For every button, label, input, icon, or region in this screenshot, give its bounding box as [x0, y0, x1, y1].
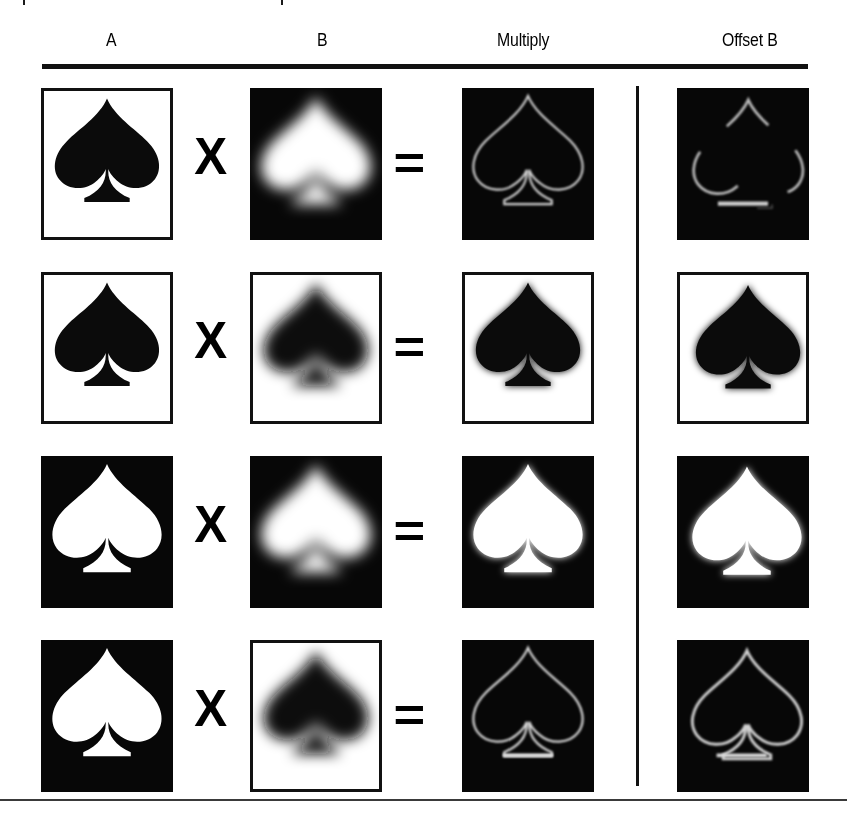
operator-equals: =	[394, 692, 426, 738]
panel-row1-b	[250, 88, 382, 240]
panel-row2-b	[250, 272, 382, 424]
operator-times: X	[194, 130, 227, 182]
panel-row1-offset	[677, 88, 809, 240]
operator-times: X	[194, 498, 227, 550]
panel-row4-multiply	[462, 640, 594, 792]
column-header-multiply: Multiply	[497, 30, 549, 51]
panel-row3-multiply	[462, 456, 594, 608]
spade-blurred-white	[250, 456, 382, 588]
spade-blurred-white	[250, 88, 382, 220]
spade-outline-glow	[462, 640, 594, 772]
column-header-b: B	[317, 30, 327, 51]
spade-softedge-black-offset	[680, 275, 806, 401]
header-rule	[42, 64, 808, 69]
panel-row4-b	[250, 640, 382, 792]
row-3: X =	[0, 456, 847, 608]
row-2: X =	[0, 272, 847, 424]
panel-row3-b	[250, 456, 382, 608]
panel-row2-a	[41, 272, 173, 424]
panel-row2-offset	[677, 272, 809, 424]
operator-equals: =	[394, 508, 426, 554]
spade-sharp-black	[44, 91, 170, 217]
spade-sharp-black	[44, 275, 170, 401]
column-header-offset-b: Offset B	[722, 30, 778, 51]
row-1: X =	[0, 88, 847, 240]
operator-equals: =	[394, 324, 426, 370]
operator-equals: =	[394, 140, 426, 186]
operator-times: X	[194, 314, 227, 366]
spade-blurred-black	[253, 643, 379, 769]
column-header-a: A	[106, 30, 116, 51]
spade-softedge-white	[462, 456, 594, 588]
spade-sharp-white	[41, 640, 173, 772]
spade-softedge-black	[465, 275, 591, 401]
spade-outline-offset-glow	[677, 88, 809, 220]
spade-sharp-white	[41, 456, 173, 588]
spade-blurred-black	[253, 275, 379, 401]
panel-row4-a	[41, 640, 173, 792]
panel-row3-offset	[677, 456, 809, 608]
figure-canvas: A B Multiply Offset B X =	[0, 0, 847, 813]
panel-row1-a	[41, 88, 173, 240]
cropped-text-speck	[23, 0, 25, 5]
cropped-text-speck	[281, 0, 283, 5]
footer-rule	[0, 799, 847, 801]
panel-row1-multiply	[462, 88, 594, 240]
row-4: X =	[0, 640, 847, 792]
spade-softedge-white-offset	[677, 456, 809, 588]
panel-row4-offset	[677, 640, 809, 792]
panel-row3-a	[41, 456, 173, 608]
operator-times: X	[194, 682, 227, 734]
spade-outline-glow	[462, 88, 594, 220]
panel-row2-multiply	[462, 272, 594, 424]
spade-outline-offset-glow	[677, 640, 809, 772]
